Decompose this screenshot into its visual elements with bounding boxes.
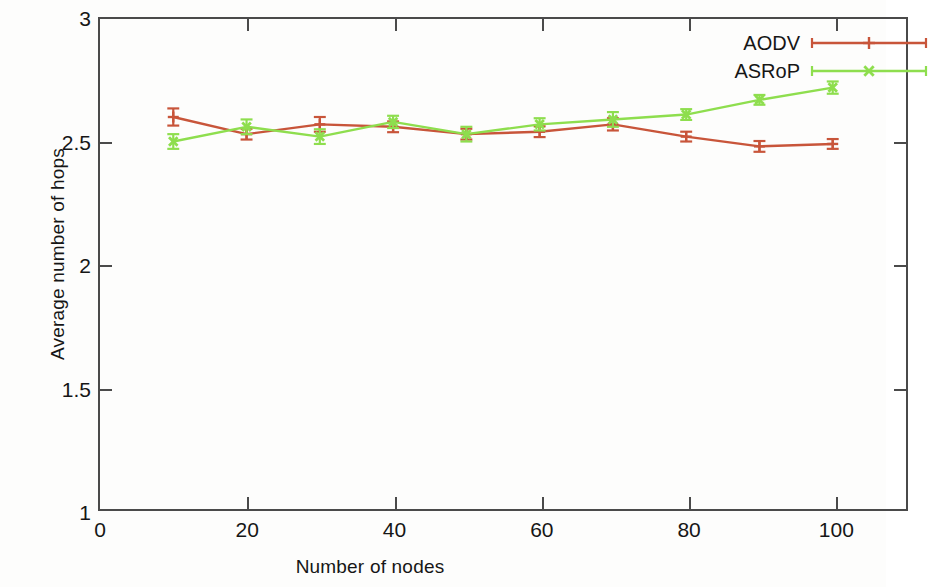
legend-label: AODV bbox=[743, 32, 800, 55]
x-tick-label: 0 bbox=[94, 518, 106, 542]
y-tick-label: 1 bbox=[79, 501, 91, 525]
legend-label: ASRoP bbox=[734, 60, 800, 83]
series-asrop bbox=[167, 81, 838, 148]
legend-item-asrop: ASRoP bbox=[678, 57, 928, 85]
plot-area: 11.522.53 020406080100 AODVASRoP bbox=[98, 17, 908, 511]
x-tick-label: 60 bbox=[530, 518, 553, 542]
y-tick-label: 2 bbox=[79, 254, 91, 278]
x-tick-label: 20 bbox=[236, 518, 259, 542]
chart-legend: AODVASRoP bbox=[678, 29, 928, 85]
y-tick-label: 1.5 bbox=[62, 378, 91, 402]
data-point-marker bbox=[168, 112, 179, 123]
x-axis-title: Number of nodes bbox=[0, 556, 740, 578]
legend-swatch-plus-icon bbox=[810, 32, 928, 54]
legend-item-aodv: AODV bbox=[678, 29, 928, 57]
y-tick-label: 3 bbox=[79, 7, 91, 31]
x-tick-label: 40 bbox=[383, 518, 406, 542]
data-point-marker bbox=[754, 141, 765, 152]
x-tick-label: 80 bbox=[677, 518, 700, 542]
legend-swatch-cross-icon bbox=[810, 60, 928, 82]
x-tick-label: 100 bbox=[819, 518, 854, 542]
y-tick-label: 2.5 bbox=[62, 131, 91, 155]
data-series-layer bbox=[100, 19, 906, 509]
